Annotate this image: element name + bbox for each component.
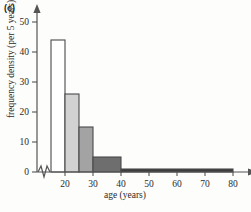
y-tick-label: 0 [24,167,29,177]
y-ticks-group: 01020304050 [20,17,38,177]
x-tick-label: 50 [144,179,154,189]
figure-panel: (c) frequency density (per 5 years) age … [0,0,251,212]
y-axis-arrow [33,4,40,13]
x-tick-label: 20 [60,179,70,189]
x-tick-label: 70 [200,179,210,189]
x-ticks-group: 20304050607080 [60,172,238,189]
y-tick-label: 30 [20,77,30,87]
x-axis-arrow [248,168,251,175]
y-tick-label: 40 [20,47,30,57]
histogram-bar [51,40,65,172]
histogram-plot: 20304050607080 01020304050 [0,0,251,212]
histogram-bar [65,94,79,172]
y-tick-label: 20 [20,107,30,117]
histogram-bar [93,157,121,172]
x-tick-label: 60 [172,179,182,189]
bars-group [51,40,233,172]
y-tick-label: 10 [20,137,30,147]
histogram-bar [79,127,93,172]
y-tick-label: 50 [20,17,30,27]
x-tick-label: 40 [116,179,126,189]
x-tick-label: 80 [228,179,238,189]
x-tick-label: 30 [88,179,98,189]
